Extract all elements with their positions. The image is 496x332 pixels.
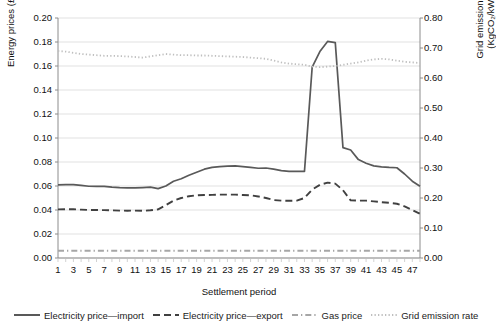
legend-item[interactable]: Grid emission rate (371, 310, 478, 321)
legend-label: Electricity price—import (44, 310, 144, 321)
legend-label: Gas price (322, 310, 363, 321)
solid-line-swatch (14, 310, 40, 320)
dashed-line-swatch (153, 310, 179, 320)
legend-item[interactable]: Electricity price—export (153, 310, 283, 321)
legend-item[interactable]: Electricity price—import (14, 310, 144, 321)
legend-label: Grid emission rate (401, 310, 478, 321)
chart-legend: Electricity price—importElectricity pric… (14, 306, 469, 324)
dotted-line-swatch (371, 310, 397, 320)
legend-item[interactable]: Gas price (292, 310, 363, 321)
legend-label: Electricity price—export (183, 310, 283, 321)
series-line-1 (58, 41, 420, 188)
dashdot-line-swatch (292, 310, 318, 320)
series-line-4 (58, 51, 420, 67)
